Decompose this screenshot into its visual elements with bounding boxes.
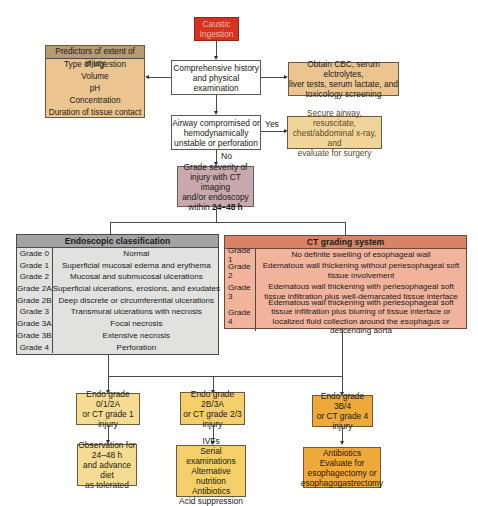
branch-1-action-line: 24–48 h [92,450,122,460]
connector [216,41,217,57]
predictor-item: pH [46,83,144,95]
endo-grade: Grade 3A [17,318,52,330]
connector [108,355,109,376]
predictor-item: Duration of tissue contact [46,107,144,119]
connector [342,329,343,376]
endo-grade: Grade 3 [17,306,52,318]
connector [261,77,285,78]
secure-line2: chest/abdominal x-ray, and [288,128,381,148]
grade-column: Grade 0 Grade 1 Grade 2 Grade 2A Grade 2… [17,248,53,353]
ct-grading-table: CT grading system Grade 1 No definite sw… [224,235,467,329]
connector [216,207,217,222]
endo-grade: Grade 2B [17,295,52,307]
description-column: Normal Superficial mucosal edema and ery… [53,248,220,353]
labs-line1: Obtain CBC, serum elctrolytes, [289,59,398,79]
connector [261,131,285,132]
airway-decision-node: Airway compromised or hemodynamically un… [171,115,261,150]
endo-grade: Grade 1 [17,260,52,272]
branch-3-action-line: esophagogastrectomy [301,478,383,488]
grade-line4-prefix: within [188,202,212,212]
ct-desc: No definite swelling of esophageal wall [256,249,466,260]
ct-row: Grade 1 No definite swelling of esophage… [225,249,466,260]
airway-line3: unstable or perforation [174,138,258,148]
yes-label: Yes [265,119,279,129]
predictor-item: Volume [46,71,144,83]
endo-desc: Superficial ulcerations, erosions, and e… [53,283,220,295]
grade-line1: Grade severity of [184,162,248,172]
endo-grade: Grade 2A [17,283,52,295]
connector [149,77,171,78]
history-exam-node: Comprehensive history and physical exami… [171,60,261,95]
labs-line2: liver tests, serum lactate, and [289,79,398,89]
branch-1-action: Observation for 24–48 h and advance diet… [77,444,137,486]
branch-2-action-line: Antibiotics [192,486,230,496]
endo-grade: Grade 3B [17,330,52,342]
endo-desc: Extensive necrosis [53,330,220,342]
branch-3-cond-line: or CT grade 4 [317,411,369,421]
labs-node: Obtain CBC, serum elctrolytes, liver tes… [288,62,399,96]
predictor-item: Concentration [46,95,144,107]
endo-desc: Mucosal and submucosal ulcerations [53,271,220,283]
branch-1-action-line: as tolerated [85,480,129,490]
branch-2-condition: Endo grade 2B/3A or CT grade 2/3 injury [180,392,245,425]
connector [110,222,345,223]
endo-grade: Grade 4 [17,342,52,354]
ct-grade: Grade 2 [225,260,256,281]
endoscopic-title: Endoscopic classification [17,235,218,248]
arrow-left-icon [145,75,149,79]
ct-grade: Grade 4 [225,302,256,331]
branch-2-action-line: Serial examinations [177,446,245,466]
ct-title: CT grading system [225,236,466,249]
grade-line2: injury with CT imaging [178,172,253,192]
predictor-item: Type of ingestion [46,59,144,71]
branch-3-cond-line: Endo grade 3B/4 [313,391,372,411]
branch-3-action: Antibiotics Evaluate for esophagectomy o… [303,447,381,488]
branch-3-action-line: esophagectomy or [308,468,377,478]
no-label: No [221,151,232,161]
branch-2-action-line: Alternative nutrition [177,466,245,486]
branch-1-cond-line: or CT grade 1 [82,409,134,419]
branch-1-cond-line: Endo grade 0/1/2A [77,389,139,409]
branch-2-cond-line: or CT grade 2/3 [183,409,242,419]
ct-desc: Edematous wall thickening with periesoph… [256,297,466,337]
branch-3-condition: Endo grade 3B/4 or CT grade 4 injury [312,395,373,427]
ct-desc: Edematous wall thickening without peries… [256,260,466,281]
labs-line3: toxicology screening [306,89,382,99]
ct-grade: Grade 1 [225,249,256,260]
grade-severity-node: Grade severity of injury with CT imaging… [177,166,254,207]
endo-desc: Focal necrosis [53,318,220,330]
airway-line2: hemodynamically [184,128,249,138]
arrow-down-icon [340,441,344,445]
predictors-box: Predictors of extent of injury Type of i… [45,45,145,118]
branch-2-action-line: IVFs [202,436,219,446]
endo-desc: Superficial mucosal edema and erythema [53,260,220,272]
history-line2: and physical examination [172,73,260,93]
branch-1-action-line: Observation for [78,440,135,450]
branch-1-condition: Endo grade 0/1/2A or CT grade 1 injury [76,393,140,425]
endo-desc: Perforation [53,342,220,354]
caustic-ingestion-line2: Ingestion [200,29,234,39]
history-line1: Comprehensive history [173,63,259,73]
endo-desc: Transmural ulcerations with necrosis [53,306,220,318]
grade-line3: and/or endoscopy [182,192,249,202]
endo-desc: Deep discrete or circumferential ulcerat… [53,295,220,307]
branch-1-action-line: and advance diet [78,460,136,480]
connector [108,425,109,441]
branch-2-action: IVFs Serial examinations Alternative nut… [176,445,246,497]
connector [345,222,346,236]
ct-row: Grade 4 Edematous wall thickening with p… [225,302,466,331]
secure-line3: evaluate for surgery [297,148,371,158]
caustic-ingestion-line1: Caustic [203,19,231,29]
branch-2-action-line: Acid suppression [179,496,243,506]
predictors-title: Predictors of extent of injury [46,46,144,59]
connector [108,376,342,377]
endo-grade: Grade 0 [17,248,52,260]
secure-line1: Secure airway, resuscitate, [288,108,381,128]
endoscopic-classification-table: Endoscopic classification Grade 0 Grade … [16,234,219,355]
endo-grade: Grade 2 [17,271,52,283]
endo-desc: Normal [53,248,220,260]
secure-airway-node: Secure airway, resuscitate, chest/abdomi… [287,116,382,149]
branch-2-cond-line: Endo grade 2B/3A [181,389,244,409]
caustic-ingestion-node: Caustic Ingestion [194,17,239,41]
airway-line1: Airway compromised or [172,118,260,128]
